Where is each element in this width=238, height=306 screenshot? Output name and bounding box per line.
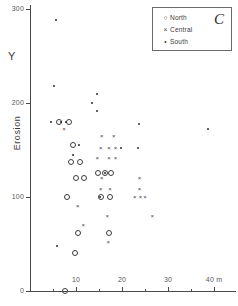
data-point-south	[137, 147, 139, 149]
data-point-south	[55, 19, 57, 21]
data-point-central: ×	[142, 194, 148, 200]
data-point-central: ×	[132, 194, 138, 200]
x-tick-minor	[145, 289, 146, 291]
y-tick-label: 300	[2, 5, 24, 12]
x-tick	[214, 287, 215, 291]
y-axis-title: Erosion	[12, 98, 22, 168]
y-tick	[26, 9, 30, 10]
data-point-north	[102, 170, 108, 176]
data-point-south	[65, 121, 67, 123]
dot-marker-icon: •	[161, 37, 170, 47]
data-point-north	[56, 119, 62, 125]
data-point-south	[53, 85, 55, 87]
circle-marker-icon: ○	[161, 13, 170, 23]
data-point-north	[72, 250, 78, 256]
data-point-north	[106, 230, 112, 236]
y-tick	[26, 291, 30, 292]
y-tick	[26, 103, 30, 104]
data-point-north	[64, 194, 70, 200]
data-point-central: ×	[105, 239, 111, 245]
data-point-north	[68, 159, 74, 165]
y-symbol-label: Y	[8, 50, 15, 62]
data-point-central: ×	[107, 186, 113, 192]
data-point-south	[207, 128, 209, 130]
data-point-north	[77, 159, 83, 165]
x-tick-label: 20	[106, 276, 138, 283]
data-point-central: ×	[80, 222, 86, 228]
x-tick-label: 30	[152, 276, 184, 283]
data-point-central: ×	[113, 145, 119, 151]
data-point-south	[91, 102, 93, 104]
legend-item-north: ○North	[161, 13, 187, 23]
data-point-south	[99, 196, 101, 198]
legend-label-south: South	[170, 37, 188, 47]
legend-item-central: ×Central	[161, 25, 192, 35]
data-point-north	[108, 170, 114, 176]
x-tick-label: 40 m	[198, 276, 230, 283]
data-point-south	[56, 245, 58, 247]
data-point-south	[104, 172, 106, 174]
data-point-central: ×	[75, 203, 81, 209]
data-point-south	[96, 110, 98, 112]
panel-letter: C	[214, 11, 224, 28]
cross-marker-icon: ×	[161, 25, 170, 35]
x-tick-minor	[53, 289, 54, 291]
data-point-north	[81, 175, 87, 181]
y-axis-line	[30, 5, 31, 291]
x-tick	[168, 287, 169, 291]
data-point-south	[120, 147, 122, 149]
data-point-central: ×	[113, 155, 119, 161]
y-tick-label: 0	[2, 287, 24, 294]
x-tick-minor	[191, 289, 192, 291]
legend-label-central: Central	[170, 25, 192, 35]
y-tick-label: 100	[2, 193, 24, 200]
y-tick-label: 200	[2, 99, 24, 106]
data-point-south	[60, 121, 62, 123]
data-point-central: ×	[99, 133, 105, 139]
data-point-central: ×	[104, 213, 110, 219]
data-point-north	[75, 230, 81, 236]
x-tick-label: 10	[60, 276, 92, 283]
data-point-central: ×	[98, 186, 104, 192]
legend-label-north: North	[170, 13, 187, 23]
data-point-central: ×	[137, 194, 143, 200]
data-point-central: ×	[136, 186, 142, 192]
data-point-north	[107, 194, 113, 200]
data-point-north	[73, 175, 79, 181]
data-point-south	[138, 123, 140, 125]
data-point-central: ×	[94, 155, 100, 161]
x-tick	[76, 287, 77, 291]
legend-item-south: •South	[161, 37, 188, 47]
scatter-plot-figure: Y Erosion 010020030010203040 m ×××××××××…	[0, 0, 238, 306]
data-point-central: ×	[106, 145, 112, 151]
y-tick	[26, 197, 30, 198]
data-point-north	[70, 142, 76, 148]
data-point-central: ×	[106, 155, 112, 161]
data-point-south	[96, 93, 98, 95]
data-point-central: ×	[98, 145, 104, 151]
data-point-south	[78, 144, 80, 146]
x-tick	[122, 287, 123, 291]
data-point-north	[98, 194, 104, 200]
data-point-south	[50, 121, 52, 123]
data-point-central: ×	[136, 175, 142, 181]
x-tick-minor	[99, 289, 100, 291]
data-point-north	[66, 119, 72, 125]
data-point-central: ×	[111, 133, 117, 139]
x-axis-line	[30, 291, 236, 292]
data-point-south	[72, 154, 74, 156]
data-point-central: ×	[99, 175, 105, 181]
legend-box: ○North ×Central •South C	[152, 7, 232, 51]
data-point-north	[95, 170, 101, 176]
data-point-central: ×	[149, 213, 155, 219]
data-point-central: ×	[61, 126, 67, 132]
